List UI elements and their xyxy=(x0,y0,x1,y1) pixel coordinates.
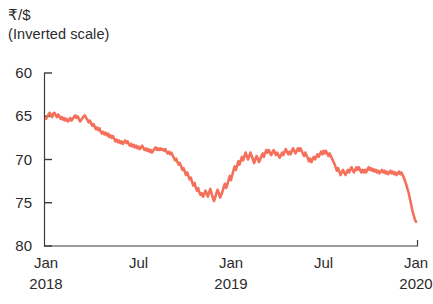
y-tick-label: 70 xyxy=(4,152,32,167)
y-tick-marks xyxy=(44,73,52,246)
x-tick-label-month: Jan xyxy=(219,254,243,272)
y-tick-label: 60 xyxy=(4,65,32,80)
series-line-rupee-per-dollar xyxy=(46,113,416,222)
y-tick-label: 65 xyxy=(4,108,32,123)
y-tick-label: 75 xyxy=(4,195,32,210)
x-tick-label-year: 2019 xyxy=(214,275,247,293)
x-tick-label-year: 2018 xyxy=(29,275,62,293)
x-tick-label-month: Jul xyxy=(314,254,333,272)
x-tick-label-month: Jan xyxy=(34,254,58,272)
y-tick-label: 80 xyxy=(4,238,32,253)
x-tick-label-month: Jul xyxy=(129,254,148,272)
x-tick-label-year: 2020 xyxy=(399,275,432,293)
x-tick-label-month: Jan xyxy=(404,254,428,272)
